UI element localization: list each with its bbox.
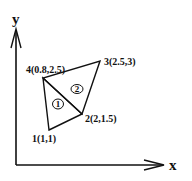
element-2-marker: 2 xyxy=(71,84,83,94)
axes: y x xyxy=(11,11,177,173)
node-labels: 4(0.8,2.5) 3(2.5,3) 2(2,1.5) 1(1,1) xyxy=(26,56,136,145)
y-axis-label: y xyxy=(12,11,20,27)
node-2-label: 2(2,1.5) xyxy=(85,113,117,125)
element-1-marker: 1 xyxy=(53,99,64,109)
x-axis-label: x xyxy=(169,157,177,173)
node-4-label: 4(0.8,2.5) xyxy=(26,64,65,76)
node-3-label: 3(2.5,3) xyxy=(104,56,136,68)
mesh-diagram: y x 1 2 4(0.8,2.5) 3(2.5,3) 2(2,1.5) 1(1… xyxy=(0,0,192,181)
element-2-label: 2 xyxy=(75,84,80,94)
element-1-label: 1 xyxy=(56,99,61,109)
node-1-label: 1(1,1) xyxy=(32,133,56,145)
